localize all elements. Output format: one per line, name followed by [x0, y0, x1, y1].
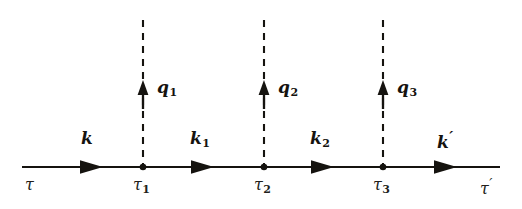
- time-label-tau-prime: τ′: [480, 177, 493, 197]
- propagator-arrow-k2: [311, 160, 334, 174]
- momentum-label-k2: k2: [310, 130, 330, 149]
- momentum-label-q2: q2: [278, 79, 298, 98]
- momentum-label-q3: q3: [397, 79, 417, 98]
- propagator-arrow-kprime: [434, 160, 457, 174]
- time-label-tau1: τ1: [133, 177, 150, 195]
- time-label-tau2-text: τ: [254, 175, 263, 194]
- momentum-label-q2-text: q: [278, 77, 290, 97]
- time-label-tau3: τ3: [373, 177, 390, 195]
- momentum-label-q1-text: q: [157, 77, 169, 97]
- momentum-label-q3-subscript: 3: [409, 86, 417, 99]
- momentum-label-q1: q1: [157, 79, 177, 98]
- momentum-label-k1-subscript: 1: [202, 137, 210, 150]
- time-label-tau2-subscript: 2: [263, 183, 271, 196]
- momentum-label-k2-text: k: [310, 128, 322, 148]
- propagator-arrow-k: [80, 160, 103, 174]
- time-label-tau-prime-text: τ: [480, 179, 489, 198]
- time-label-tau3-subscript: 3: [382, 183, 390, 196]
- time-label-tau: τ: [25, 177, 34, 193]
- momentum-label-k1-text: k: [190, 128, 202, 148]
- time-label-tau1-subscript: 1: [142, 183, 150, 196]
- momentum-label-q3-text: q: [397, 77, 409, 97]
- momentum-label-k2-subscript: 2: [322, 137, 330, 150]
- momentum-label-k-prime-mark: ′: [449, 128, 453, 146]
- momentum-label-k-prime: k′: [437, 130, 453, 151]
- feynman-diagram: k k1 k2 k′ q1 q2 q3 τ τ1 τ2 τ3 τ′: [0, 0, 522, 209]
- interaction-arrow-q2: [259, 80, 270, 95]
- momentum-label-q2-subscript: 2: [290, 86, 298, 99]
- vertex-dot-2: [261, 164, 268, 171]
- time-label-tau2: τ2: [254, 177, 271, 195]
- momentum-label-q1-subscript: 1: [169, 86, 177, 99]
- interaction-arrow-q1: [138, 80, 149, 95]
- momentum-label-k1: k1: [190, 130, 210, 149]
- time-label-tau-text: τ: [25, 175, 34, 194]
- time-label-tau-prime-mark: ′: [489, 176, 492, 192]
- momentum-label-k-text: k: [81, 128, 93, 148]
- propagator-arrow-k1: [191, 160, 214, 174]
- momentum-label-k-prime-text: k: [437, 132, 449, 152]
- time-label-tau3-text: τ: [373, 175, 382, 194]
- vertex-dot-3: [380, 164, 387, 171]
- vertex-dot-1: [140, 164, 147, 171]
- interaction-arrow-q3: [378, 80, 389, 95]
- time-label-tau1-text: τ: [133, 175, 142, 194]
- momentum-label-k: k: [81, 130, 93, 147]
